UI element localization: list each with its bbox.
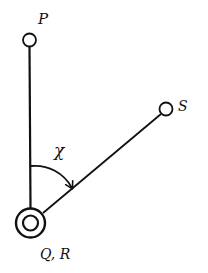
point-s-circle — [160, 103, 173, 116]
segment-qr-s — [43, 114, 161, 213]
segment-qr-p — [30, 47, 31, 208]
label-angle-chi: χ — [53, 140, 66, 160]
point-p-circle — [23, 34, 36, 47]
label-p: P — [37, 10, 49, 28]
angle-arc-chi — [31, 166, 72, 188]
point-qr-inner-circle — [23, 216, 38, 231]
label-qr: Q, R — [40, 246, 71, 262]
angle-diagram: P S Q, R χ — [0, 0, 208, 273]
label-s: S — [178, 98, 188, 114]
